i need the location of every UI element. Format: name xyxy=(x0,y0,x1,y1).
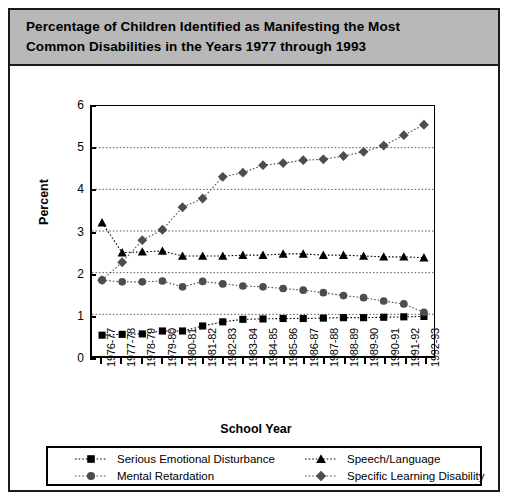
y-axis-label: Percent xyxy=(37,162,51,242)
data-point-circle xyxy=(259,283,267,291)
legend-label: Mental Retardation xyxy=(117,470,214,482)
x-tick-label: 1976-77 xyxy=(105,328,117,367)
x-tick-label: 1979-80 xyxy=(166,328,178,367)
legend-entry[interactable]: Mental Retardation xyxy=(74,469,214,483)
data-point-square xyxy=(259,315,266,322)
x-tick-mark xyxy=(364,358,366,364)
data-point-square xyxy=(87,455,95,463)
x-tick-mark xyxy=(222,358,224,364)
legend-label: Serious Emotional Disturbance xyxy=(117,453,275,465)
data-point-square xyxy=(219,318,226,325)
y-tick-label: 3 xyxy=(62,225,84,239)
data-point-circle xyxy=(299,286,307,294)
x-tick-label: 1982-83 xyxy=(226,328,238,367)
x-tick-mark xyxy=(161,358,163,364)
x-tick-mark xyxy=(283,358,285,364)
x-tick-label: 1981-82 xyxy=(206,328,218,367)
data-point-triangle xyxy=(319,251,328,259)
data-point-triangle xyxy=(198,251,207,259)
data-point-triangle xyxy=(158,246,167,254)
y-axis-tick-labels: 0123456 xyxy=(60,105,84,358)
x-tick-mark xyxy=(263,358,265,364)
x-tick-mark xyxy=(384,358,386,364)
series-triangle xyxy=(97,218,428,261)
x-tick-mark xyxy=(405,358,407,364)
data-point-circle xyxy=(199,278,207,286)
x-tick-label: 1989-90 xyxy=(368,328,380,367)
data-point-diamond xyxy=(316,471,326,481)
chart-plot-svg xyxy=(92,106,434,356)
data-point-circle xyxy=(420,308,428,316)
series-diamond xyxy=(97,120,429,285)
data-point-diamond xyxy=(359,147,369,157)
legend-entry[interactable]: Speech/Language xyxy=(304,452,440,466)
data-point-triangle xyxy=(379,252,388,260)
legend-label: Specific Learning Disability xyxy=(347,470,484,482)
plot-area xyxy=(90,105,435,358)
x-tick-mark xyxy=(100,358,102,364)
x-tick-label: 1986-87 xyxy=(308,328,320,367)
x-axis-label: School Year xyxy=(10,422,502,436)
data-point-diamond xyxy=(238,168,248,178)
x-tick-mark xyxy=(120,358,122,364)
data-point-diamond xyxy=(298,155,308,165)
x-tick-label: 1983-84 xyxy=(247,328,259,367)
data-point-square xyxy=(239,316,246,323)
x-tick-mark xyxy=(202,358,204,364)
data-point-square xyxy=(280,315,287,322)
data-point-circle xyxy=(279,285,287,293)
data-point-diamond xyxy=(318,154,328,164)
legend-marker-diamond-icon xyxy=(304,469,338,483)
legend-marker-circle-icon xyxy=(74,469,108,483)
x-tick-mark xyxy=(181,358,183,364)
legend-entry[interactable]: Specific Learning Disability xyxy=(304,469,484,483)
x-tick-mark xyxy=(242,358,244,364)
y-tick-label: 0 xyxy=(62,351,84,365)
x-tick-label: 1992-93 xyxy=(429,328,441,367)
data-point-diamond xyxy=(419,120,429,130)
data-point-circle xyxy=(360,294,368,302)
data-point-circle xyxy=(319,289,327,297)
data-point-diamond xyxy=(379,141,389,151)
y-tick-label: 4 xyxy=(62,182,84,196)
x-tick-label: 1988-89 xyxy=(348,328,360,367)
data-point-square xyxy=(380,314,387,321)
data-point-triangle xyxy=(138,247,147,255)
x-tick-mark xyxy=(141,358,143,364)
x-tick-label: 1978-79 xyxy=(145,328,157,367)
data-point-square xyxy=(300,315,307,322)
data-point-diamond xyxy=(157,225,167,235)
data-point-square xyxy=(340,314,347,321)
data-point-triangle xyxy=(258,251,267,259)
data-point-circle xyxy=(219,280,227,288)
x-tick-label: 1990-91 xyxy=(389,328,401,367)
data-point-square xyxy=(360,314,367,321)
legend-entry[interactable]: Serious Emotional Disturbance xyxy=(74,452,275,466)
x-tick-label: 1991-92 xyxy=(409,328,421,367)
chart-figure: Percentage of Children Identified as Man… xyxy=(8,8,500,492)
legend-label: Speech/Language xyxy=(347,453,440,465)
data-point-square xyxy=(400,313,407,320)
chart-title-banner: Percentage of Children Identified as Man… xyxy=(10,10,498,66)
y-tick-label: 1 xyxy=(62,309,84,323)
x-tick-label: 1984-85 xyxy=(267,328,279,367)
x-tick-mark xyxy=(425,358,427,364)
data-point-circle xyxy=(179,283,187,291)
x-tick-label: 1987-88 xyxy=(328,328,340,367)
data-point-triangle xyxy=(97,218,106,226)
x-tick-mark xyxy=(303,358,305,364)
x-tick-label: 1985-86 xyxy=(287,328,299,367)
data-point-diamond xyxy=(278,158,288,168)
legend-marker-square-icon xyxy=(74,452,108,466)
data-point-circle xyxy=(118,278,126,286)
y-tick-label: 5 xyxy=(62,140,84,154)
y-tick-mark xyxy=(90,358,96,360)
x-tick-label: 1980-81 xyxy=(186,328,198,367)
x-tick-mark xyxy=(323,358,325,364)
data-point-circle xyxy=(87,472,95,480)
chart-legend: Serious Emotional DisturbanceSpeech/Lang… xyxy=(46,446,482,486)
y-tick-label: 6 xyxy=(62,98,84,112)
data-point-diamond xyxy=(339,151,349,161)
data-point-circle xyxy=(400,300,408,308)
page-title: Percentage of Children Identified as Man… xyxy=(26,17,484,56)
